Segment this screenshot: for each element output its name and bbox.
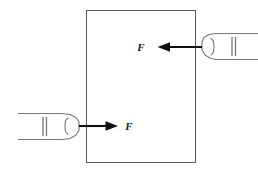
hand-right-top-edge [202,34,258,60]
block-rectangle [87,11,196,163]
hand-left-top-edge [18,114,79,140]
hand-right-nail-crease [211,39,214,56]
hand-right [202,34,258,60]
hand-left-nail-crease [65,118,68,135]
force-label-right: F [136,41,145,53]
force-label-left: F [124,120,133,132]
diagram-canvas: F F [0,0,258,174]
force-diagram-figure: F F [0,0,258,174]
hand-left [18,114,79,140]
